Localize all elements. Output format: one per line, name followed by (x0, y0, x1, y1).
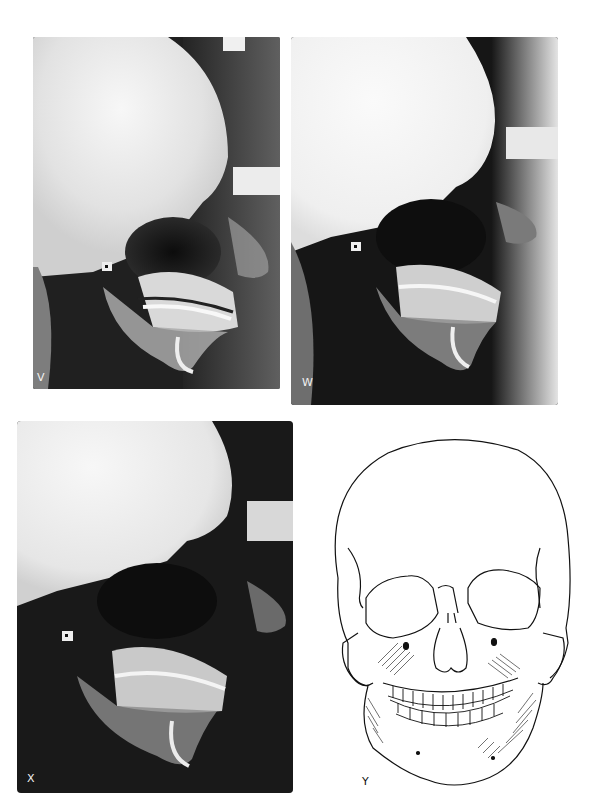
radiograph-w: W (291, 37, 558, 405)
panel-label-v: V (37, 371, 45, 384)
radiograph-x-image (17, 421, 293, 793)
radiograph-x: X (17, 421, 293, 793)
radiograph-v-image (33, 37, 280, 389)
radiograph-v: V (33, 37, 280, 389)
panel-label-w: W (302, 376, 313, 389)
panel-label-x: X (27, 772, 35, 785)
skull-drawing-y: Y (318, 428, 584, 796)
frontal-skull-illustration (318, 428, 584, 796)
panel-label-y: Y (362, 775, 369, 788)
radiograph-w-image (291, 37, 558, 405)
